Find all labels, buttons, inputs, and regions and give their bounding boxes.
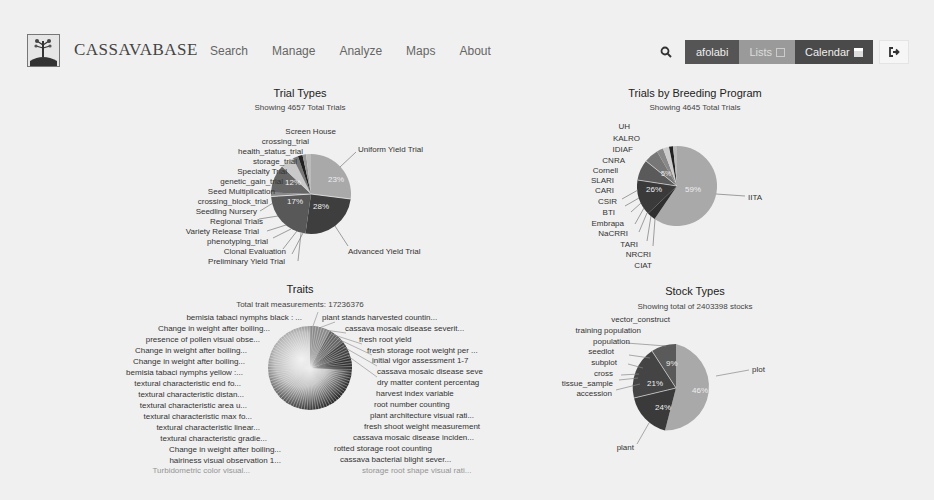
- svg-text:crossing_block_trial: crossing_block_trial: [198, 197, 268, 206]
- svg-text:Specialty Trial: Specialty Trial: [237, 167, 287, 176]
- pie-trial-types[interactable]: 23% 28% 17% 12% Screen House crossing_tr…: [0, 0, 934, 500]
- svg-text:Advanced Yield Trial: Advanced Yield Trial: [348, 247, 421, 256]
- svg-text:Uniform Yield Trial: Uniform Yield Trial: [358, 145, 423, 154]
- svg-text:Preliminary Yield Trial: Preliminary Yield Trial: [208, 257, 285, 266]
- svg-text:Seedling Nursery: Seedling Nursery: [196, 207, 257, 216]
- svg-text:crossing_trial: crossing_trial: [262, 137, 309, 146]
- svg-text:Clonal Evaluation: Clonal Evaluation: [224, 247, 286, 256]
- svg-text:Regional Trials: Regional Trials: [210, 217, 263, 226]
- svg-text:Seed Multiplication: Seed Multiplication: [208, 187, 275, 196]
- svg-text:storage_trial: storage_trial: [253, 157, 297, 166]
- svg-text:phenotyping_trial: phenotyping_trial: [207, 237, 268, 246]
- svg-text:health_status_trial: health_status_trial: [238, 147, 303, 156]
- svg-text:28%: 28%: [313, 202, 329, 211]
- svg-text:12%: 12%: [285, 178, 301, 187]
- svg-text:17%: 17%: [287, 197, 303, 206]
- chart-trial-types: Trial Types Showing 4657 Total Trials 23…: [0, 0, 934, 500]
- svg-text:Screen House: Screen House: [285, 127, 336, 136]
- svg-text:genetic_gain_trial: genetic_gain_trial: [220, 177, 283, 186]
- svg-text:Variety Release Trial: Variety Release Trial: [186, 227, 259, 236]
- svg-text:23%: 23%: [328, 175, 344, 184]
